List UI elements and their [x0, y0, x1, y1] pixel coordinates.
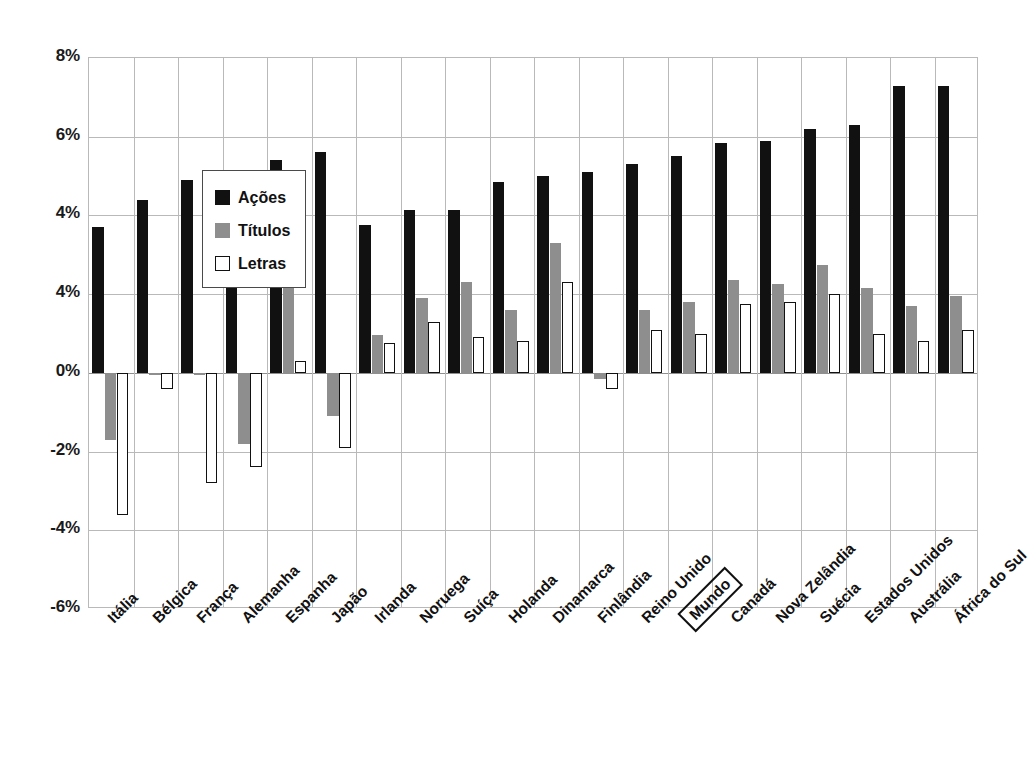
bar-letras — [206, 373, 218, 483]
bar-titulos — [817, 265, 829, 373]
legend-item: Ações — [215, 181, 305, 214]
bar-letras — [962, 330, 974, 373]
bar-group — [223, 58, 268, 607]
bar-group — [178, 58, 223, 607]
bar-group — [445, 58, 490, 607]
y-axis: 8%6%4%4%0%-2%-4%-6% — [24, 57, 80, 608]
x-axis: ItáliaBélgicaFrançaAlemanhaEspanhaJapãoI… — [88, 608, 978, 768]
bar-group — [579, 58, 624, 607]
bar-group — [890, 58, 935, 607]
bar-titulos — [728, 280, 740, 372]
bar-titulos — [861, 288, 873, 373]
bar-letras — [918, 341, 930, 372]
bar-titulos — [772, 284, 784, 373]
bar-acoes — [938, 86, 950, 373]
bar-titulos — [594, 373, 606, 379]
bar-letras — [740, 304, 752, 373]
bar-titulos — [950, 296, 962, 373]
bar-acoes — [582, 172, 594, 373]
bar-titulos — [238, 373, 250, 444]
bar-group — [401, 58, 446, 607]
bar-letras — [384, 343, 396, 373]
bar-letras — [473, 337, 485, 372]
bar-group — [846, 58, 891, 607]
bar-titulos — [372, 335, 384, 372]
bar-titulos — [683, 302, 695, 373]
bar-letras — [339, 373, 351, 448]
bar-acoes — [893, 86, 905, 373]
bar-letras — [651, 330, 663, 373]
bar-acoes — [626, 164, 638, 373]
bar-acoes — [804, 129, 816, 373]
bar-titulos — [550, 243, 562, 373]
bar-letras — [428, 322, 440, 373]
bar-acoes — [537, 176, 549, 373]
bar-group — [134, 58, 179, 607]
bar-titulos — [416, 298, 428, 373]
bar-acoes — [760, 141, 772, 373]
bar-group — [312, 58, 357, 607]
bar-letras — [517, 341, 529, 372]
bar-group — [801, 58, 846, 607]
bar-group — [757, 58, 802, 607]
bar-group — [623, 58, 668, 607]
bar-letras — [606, 373, 618, 389]
bar-letras — [784, 302, 796, 373]
bar-titulos — [194, 373, 206, 376]
legend-item: Títulos — [215, 214, 305, 247]
bar-group — [534, 58, 579, 607]
bar-acoes — [315, 152, 327, 372]
y-axis-tick-label: 4% — [34, 282, 80, 302]
chart-legend: AçõesTítulosLetras — [202, 170, 306, 288]
bar-letras — [873, 334, 885, 373]
bar-group — [668, 58, 713, 607]
bar-titulos — [639, 310, 651, 373]
plot-area: AçõesTítulosLetras — [88, 57, 978, 608]
y-axis-tick-label: -4% — [34, 518, 80, 538]
legend-item: Letras — [215, 247, 305, 280]
bar-acoes — [715, 143, 727, 373]
bar-group — [89, 58, 134, 607]
bar-acoes — [359, 225, 371, 373]
bar-acoes — [448, 210, 460, 373]
legend-swatch-titulos — [215, 223, 230, 238]
legend-label: Títulos — [238, 222, 290, 240]
bar-titulos — [327, 373, 339, 416]
legend-swatch-letras — [215, 256, 230, 271]
bar-letras — [161, 373, 173, 389]
legend-swatch-acoes — [215, 190, 230, 205]
bar-letras — [117, 373, 129, 515]
bar-group — [356, 58, 401, 607]
bar-acoes — [849, 125, 861, 373]
bar-group — [267, 58, 312, 607]
bar-letras — [695, 334, 707, 373]
bar-acoes — [181, 180, 193, 373]
bar-titulos — [505, 310, 517, 373]
y-axis-tick-label: -2% — [34, 440, 80, 460]
bar-group — [935, 58, 980, 607]
bar-titulos — [906, 306, 918, 373]
bar-titulos — [105, 373, 117, 440]
bar-letras — [562, 282, 574, 373]
y-axis-tick-label: 4% — [34, 203, 80, 223]
bar-titulos — [461, 282, 473, 373]
y-axis-tick-label: 8% — [34, 46, 80, 66]
bar-titulos — [149, 373, 161, 376]
bar-acoes — [404, 210, 416, 373]
bar-letras — [295, 361, 307, 373]
legend-label: Ações — [238, 189, 286, 207]
bar-group — [712, 58, 757, 607]
bar-letras — [250, 373, 262, 467]
bar-acoes — [493, 182, 505, 373]
bar-acoes — [137, 200, 149, 373]
bar-acoes — [671, 156, 683, 372]
legend-label: Letras — [238, 255, 286, 273]
y-axis-tick-label: 6% — [34, 125, 80, 145]
bar-group — [490, 58, 535, 607]
y-axis-tick-label: -6% — [34, 597, 80, 617]
bar-letras — [829, 294, 841, 373]
bar-acoes — [92, 227, 104, 373]
y-axis-tick-label: 0% — [34, 361, 80, 381]
